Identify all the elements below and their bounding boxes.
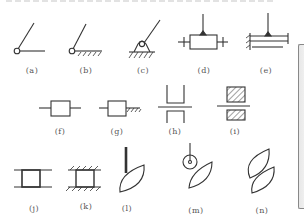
label-b: (b)	[80, 66, 93, 75]
label-c: (c)	[137, 66, 149, 75]
symbol-l-cam-follower	[120, 147, 144, 192]
label-f: (f)	[55, 127, 66, 136]
symbol-h-sliding-pair-channel	[158, 85, 192, 123]
label-m: (m)	[188, 206, 203, 215]
symbol-g-slider-fixed	[99, 101, 141, 116]
symbol-c-fixed-hinge	[129, 20, 160, 58]
symbol-d-slider-on-rod	[178, 14, 228, 49]
label-n: (n)	[256, 206, 269, 215]
label-l: (l)	[122, 204, 132, 213]
label-e: (e)	[260, 66, 272, 75]
symbol-j-block-parallel-guides	[14, 170, 52, 187]
symbol-i-sliding-pair-fixed	[217, 87, 250, 120]
label-k: (k)	[80, 202, 93, 211]
label-i: (i)	[230, 127, 240, 136]
symbol-k-block-fixed-guides	[66, 166, 101, 191]
symbol-a-revolute-link	[14, 23, 45, 54]
label-a: (a)	[26, 66, 39, 75]
symbol-e-slider-fixed-guide	[246, 13, 288, 50]
label-d: (d)	[198, 66, 211, 75]
symbol-n-cam-pair	[248, 149, 274, 193]
label-h: (h)	[169, 127, 182, 136]
symbol-f-slider-block	[39, 101, 81, 116]
symbol-m-cam-roller-follower	[183, 143, 212, 188]
side-panel-edge	[298, 44, 304, 209]
label-g: (g)	[111, 127, 124, 136]
kinematic-symbols-diagram	[0, 0, 304, 217]
label-j: (j)	[29, 204, 39, 213]
symbol-b-grounded-link	[69, 24, 102, 56]
